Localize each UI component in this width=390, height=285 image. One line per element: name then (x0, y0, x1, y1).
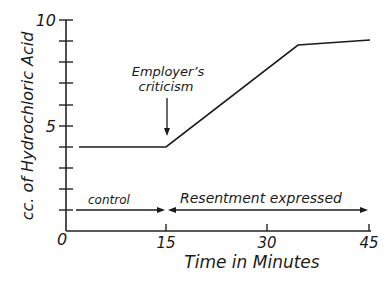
annotation-resentment: Resentment expressed (180, 190, 342, 206)
annotation-control: control (88, 193, 131, 207)
annotation-criticism-line1: Employer’s (132, 64, 205, 79)
y-tick-label-10: 10 (36, 11, 56, 30)
criticism-arrow-head (164, 128, 170, 136)
chart: 10 5 0 15 30 45 Time in Minutes cc. of H… (0, 0, 390, 285)
data-line (79, 40, 370, 147)
x-tick-label-0: 0 (57, 230, 67, 249)
annotation-criticism-line2: criticism (138, 79, 193, 94)
x-tick-label-30: 30 (257, 234, 276, 252)
resentment-arrow-head-right (360, 207, 368, 213)
control-arrow-head (157, 207, 165, 213)
y-axis-label: cc. of Hydrochloric Acid (18, 31, 37, 221)
x-axis-label: Time in Minutes (184, 252, 319, 272)
x-tick-label-45: 45 (359, 234, 378, 252)
x-tick-label-15: 15 (156, 234, 175, 252)
y-tick-label-5: 5 (46, 117, 56, 136)
resentment-arrow-head-left (168, 207, 176, 213)
x-ticks (166, 224, 369, 231)
